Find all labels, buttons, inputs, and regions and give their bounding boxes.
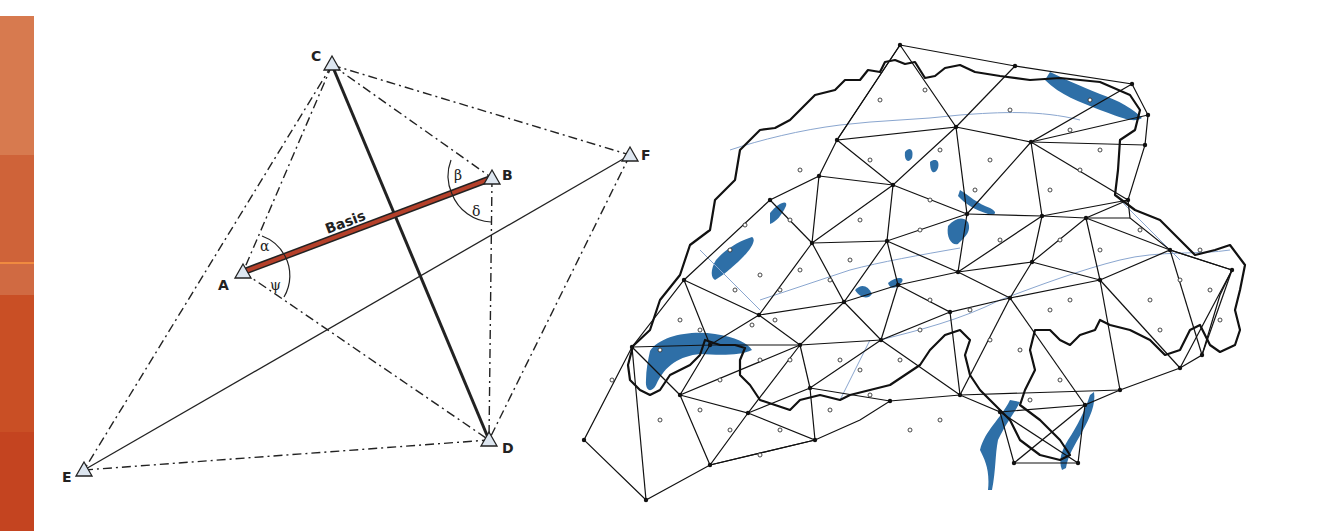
triangulation-diagram <box>84 65 630 470</box>
line-b-d <box>489 178 492 440</box>
lake-neuchatel <box>712 237 754 280</box>
station-c-icon <box>324 56 340 70</box>
baseline <box>243 178 492 272</box>
station-label-b: B <box>502 167 513 183</box>
line-c-e <box>84 65 332 470</box>
angle-label-psi: ψ <box>270 277 281 293</box>
angle-label-beta: β <box>454 167 462 183</box>
lake-constance <box>1045 72 1142 120</box>
station-label-a: A <box>218 277 229 293</box>
angle-arc-beta <box>448 160 452 194</box>
angle-labels: α ψ β δ <box>260 167 480 293</box>
lake-small-2 <box>905 149 913 161</box>
angle-label-delta: δ <box>472 203 480 219</box>
line-f-d <box>489 155 630 440</box>
station-markers <box>76 56 638 476</box>
lake-zurich <box>958 190 995 215</box>
station-label-c: C <box>311 48 321 64</box>
line-e-d <box>84 440 489 470</box>
station-labels: A B C D E F <box>62 48 651 485</box>
station-d-icon <box>481 432 497 446</box>
station-label-e: E <box>62 469 72 485</box>
station-label-d: D <box>502 440 514 456</box>
network-nodes <box>582 43 1234 502</box>
station-label-f: F <box>641 147 651 163</box>
lake-small-1 <box>930 160 938 172</box>
secondary-points <box>610 88 1222 457</box>
lake-geneva <box>646 333 752 390</box>
line-a-d <box>243 272 489 440</box>
lakes <box>646 72 1142 490</box>
line-e-f <box>84 155 630 470</box>
angle-arc-psi <box>284 256 290 297</box>
network-map <box>582 43 1245 502</box>
angle-label-alpha: α <box>260 238 270 254</box>
figure-canvas: A B C D E F α ψ β δ Basis <box>0 0 1326 531</box>
line-c-f <box>332 65 630 155</box>
lake-biel <box>770 202 786 224</box>
